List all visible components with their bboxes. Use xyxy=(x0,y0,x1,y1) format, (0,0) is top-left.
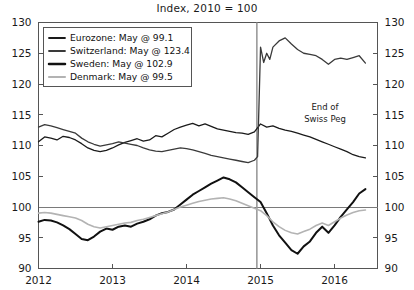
chart-plot: 9095100105110115120125130 90951001051101… xyxy=(0,0,414,290)
chart-container: Index, 2010 = 100 9095100105110115120125… xyxy=(0,0,414,290)
svg-text:Swiss Peg: Swiss Peg xyxy=(304,114,346,124)
x-axis-ticks: 20122013201420152016 xyxy=(25,264,348,286)
svg-text:100: 100 xyxy=(385,201,405,213)
chart-legend: Eurozone: May @ 99.1Switzerland: May @ 1… xyxy=(43,27,191,86)
svg-text:95: 95 xyxy=(18,232,31,244)
svg-text:120: 120 xyxy=(385,78,405,90)
svg-text:End of: End of xyxy=(311,102,339,112)
svg-text:120: 120 xyxy=(11,78,31,90)
svg-text:125: 125 xyxy=(11,47,31,59)
svg-text:125: 125 xyxy=(385,47,405,59)
svg-text:90: 90 xyxy=(18,262,31,274)
svg-text:110: 110 xyxy=(385,139,405,151)
svg-text:Eurozone: May @ 99.1: Eurozone: May @ 99.1 xyxy=(70,32,173,43)
svg-text:130: 130 xyxy=(11,16,31,28)
svg-text:2012: 2012 xyxy=(25,274,52,286)
svg-text:Switzerland: May @ 123.4: Switzerland: May @ 123.4 xyxy=(70,45,190,56)
svg-text:115: 115 xyxy=(385,109,405,121)
svg-text:Sweden: May @ 102.9: Sweden: May @ 102.9 xyxy=(70,58,173,69)
svg-text:95: 95 xyxy=(385,232,398,244)
svg-text:115: 115 xyxy=(11,109,31,121)
svg-text:2015: 2015 xyxy=(247,274,274,286)
svg-text:110: 110 xyxy=(11,139,31,151)
svg-text:105: 105 xyxy=(385,170,405,182)
svg-text:90: 90 xyxy=(385,262,398,274)
svg-text:2013: 2013 xyxy=(99,274,126,286)
svg-text:105: 105 xyxy=(11,170,31,182)
svg-text:2014: 2014 xyxy=(173,274,200,286)
svg-text:Denmark: May @ 99.5: Denmark: May @ 99.5 xyxy=(70,71,173,82)
svg-text:2016: 2016 xyxy=(321,274,348,286)
svg-text:130: 130 xyxy=(385,16,405,28)
svg-text:100: 100 xyxy=(11,201,31,213)
swiss-peg-annotation: End ofSwiss Peg xyxy=(304,102,346,124)
